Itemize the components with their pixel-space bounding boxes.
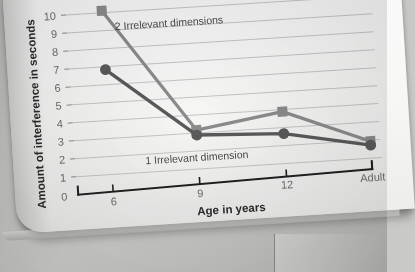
x-tick-label-9: 9	[197, 187, 204, 199]
y-tick-label: 8	[52, 46, 59, 58]
gridline-8	[68, 32, 373, 51]
gridline-7	[69, 50, 374, 69]
annotation-1-irrelevant-dimension: 1 Irrelevant dimension	[145, 148, 249, 166]
x-tick-label-6: 6	[110, 195, 117, 207]
y-axis-title: Amount of interference in seconds	[24, 19, 48, 209]
y-tick-label: 6	[54, 82, 61, 94]
x-axis-title: Age in years	[197, 201, 266, 217]
x-tick-label-adult: Adult	[360, 170, 386, 184]
y-tick-label: 3	[57, 135, 64, 147]
y-tick-label: 7	[53, 64, 60, 76]
y-tick-label-zero: 0	[61, 190, 68, 202]
y-tick-label: 4	[56, 117, 63, 129]
page-seam-line	[274, 234, 275, 272]
gridline-4	[73, 104, 378, 123]
gridline-5	[72, 86, 377, 105]
data-point-marker-square	[277, 106, 288, 117]
series-line-1-irrelevant	[105, 53, 370, 161]
page-seam-shading	[275, 234, 387, 272]
chart-figure: 10 9 8 7 6 5 4 3 2 1 0 Amount of interfe…	[2, 0, 415, 234]
x-tick-label-12: 12	[281, 178, 294, 191]
data-point-marker-circle	[278, 128, 289, 139]
y-tick-label: 9	[51, 28, 58, 40]
y-axis-tick-labels: 10 9 8 7 6 5 4 3 2 1 0	[43, 10, 67, 203]
y-tick-label: 10	[43, 10, 56, 23]
annotation-2-irrelevant-dimensions: 2 Irrelevant dimensions	[114, 13, 223, 32]
data-point-marker-square	[96, 5, 107, 16]
x-axis-line	[77, 161, 372, 194]
y-tick-label: 1	[60, 171, 67, 183]
y-tick-label: 2	[59, 153, 66, 165]
y-tick-label: 5	[55, 100, 62, 112]
